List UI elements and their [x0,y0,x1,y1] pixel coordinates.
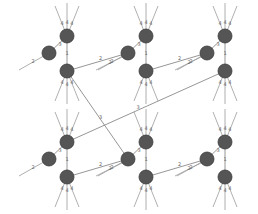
node-left [121,152,135,166]
parallel-stub-label: 2 [187,59,190,65]
diagonal-label: 3 [216,147,219,153]
fan-down-label: 4 [65,81,68,87]
node-top [139,29,153,43]
node-left [200,152,214,166]
node-bottom [139,64,153,78]
fan-down-label: 4 [70,185,73,191]
cross-link-label: 3 [99,114,102,120]
fan-up-label: 4 [61,126,64,132]
node-left [42,46,56,60]
vertical-label: 1 [65,50,68,56]
fan-down-label: 4 [144,81,147,87]
diagonal-label: 3 [216,41,219,47]
fan-up-label: 4 [149,126,152,132]
fan-up-label: 4 [61,20,64,26]
graph-diagram: 4444441324444441324444441324444441324444… [0,0,258,214]
diagonal-label: 3 [58,41,61,47]
cross-link-edge [146,53,207,71]
fan-down-label: 4 [219,185,222,191]
cross-link-label: 3 [137,104,140,110]
fan-up-label: 4 [144,125,147,131]
vertical-label: 1 [65,156,68,162]
cross-link-edge [67,159,128,177]
fan-up-label: 4 [223,125,226,131]
node-bottom [60,170,74,184]
node-top [218,135,232,149]
fan-down-label: 4 [140,185,143,191]
node-bottom [218,64,232,78]
fan-down-label: 4 [223,187,226,193]
diagonal-label: 3 [137,147,140,153]
cross-link-edge [67,53,128,71]
cross-link-label: 2 [99,55,102,61]
vertical-label: 1 [223,50,226,56]
fan-down-label: 4 [61,79,64,85]
fan-up-label: 4 [219,126,222,132]
fan-down-label: 4 [228,79,231,85]
fan-down-label: 4 [149,185,152,191]
fan-up-label: 4 [70,20,73,26]
vertical-label: 1 [144,156,147,162]
diagonal-label: 3 [58,147,61,153]
node-top [60,29,74,43]
fan-down-label: 4 [70,79,73,85]
node-top [60,135,74,149]
fan-down-label: 4 [149,79,152,85]
cross-link-edge [146,159,207,177]
left-stub-label: 2 [31,58,34,64]
fan-up-label: 4 [149,20,152,26]
fan-down-label: 4 [219,79,222,85]
fan-down-label: 4 [144,187,147,193]
node-left [200,46,214,60]
node-left [121,46,135,60]
parallel-stub-label: 2 [187,165,190,171]
fan-down-label: 4 [61,185,64,191]
node-top [139,135,153,149]
fan-down-label: 4 [228,185,231,191]
vertical-label: 1 [223,156,226,162]
fan-up-label: 4 [219,20,222,26]
node-top [218,29,232,43]
fan-up-label: 4 [144,19,147,25]
fan-up-label: 4 [228,20,231,26]
cross-link-label: 2 [178,161,181,167]
cross-link-label: 2 [178,55,181,61]
fan-down-label: 4 [65,187,68,193]
node-bottom [218,170,232,184]
fan-up-label: 4 [228,126,231,132]
fan-up-label: 4 [65,19,68,25]
edges-layer [19,3,237,210]
edge-labels-layer: 4444441324444441324444441324444441324444… [31,19,231,192]
node-bottom [139,170,153,184]
cross-link-edge [67,71,128,159]
node-left [42,152,56,166]
cross-link-label: 2 [99,161,102,167]
parallel-stub-label: 2 [108,59,111,65]
fan-up-label: 4 [65,125,68,131]
diagonal-label: 3 [137,41,140,47]
fan-up-label: 4 [223,19,226,25]
fan-up-label: 4 [70,126,73,132]
vertical-label: 1 [144,50,147,56]
parallel-stub-label: 2 [108,165,111,171]
fan-up-label: 4 [140,20,143,26]
node-bottom [60,64,74,78]
fan-down-label: 4 [140,79,143,85]
fan-up-label: 4 [140,126,143,132]
left-stub-label: 2 [31,164,34,170]
fan-down-label: 4 [223,81,226,87]
